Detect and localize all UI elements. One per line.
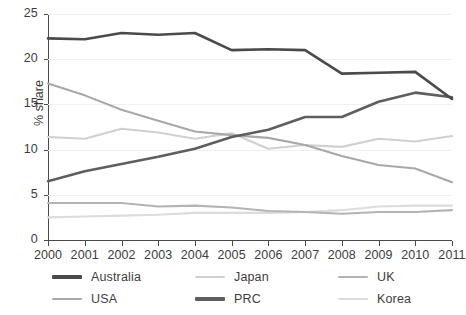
x-tick-mark-2009: [379, 241, 380, 246]
x-tick-label-2010: 2010: [401, 248, 429, 262]
legend-item-usa[interactable]: USA: [52, 290, 117, 308]
legend-item-prc[interactable]: PRC: [195, 290, 261, 308]
x-tick-label-2006: 2006: [254, 248, 282, 262]
x-tick-label-2011: 2011: [438, 248, 465, 262]
legend-swatch-usa: [52, 298, 82, 301]
x-tick-mark-2002: [122, 241, 123, 246]
legend-swatch-uk: [338, 276, 368, 279]
x-tick-mark-2007: [305, 241, 306, 246]
x-tick-label-2002: 2002: [107, 248, 135, 262]
legend-item-japan[interactable]: Japan: [195, 268, 269, 286]
x-tick-label-2001: 2001: [71, 248, 99, 262]
series-line-japan: [48, 129, 452, 149]
x-tick-mark-2004: [195, 241, 196, 246]
x-tick-mark-2005: [232, 241, 233, 246]
y-tick-label-25: 25: [0, 6, 38, 20]
x-tick-label-2004: 2004: [181, 248, 209, 262]
legend-swatch-australia: [52, 275, 82, 278]
legend-swatch-japan: [195, 276, 225, 279]
plot-area: [48, 14, 452, 240]
y-tick-label-15: 15: [0, 96, 38, 110]
x-tick-label-2005: 2005: [217, 248, 245, 262]
chart-legend: AustraliaUSAJapanPRCUKKorea: [52, 268, 452, 312]
legend-swatch-prc: [195, 297, 225, 300]
x-tick-mark-2010: [415, 241, 416, 246]
x-tick-mark-2011: [452, 241, 453, 246]
x-axis-line: [48, 240, 452, 241]
x-tick-mark-2000: [48, 241, 49, 246]
x-tick-mark-2006: [268, 241, 269, 246]
y-tick-label-20: 20: [0, 51, 38, 65]
legend-item-korea[interactable]: Korea: [338, 290, 411, 308]
legend-item-uk[interactable]: UK: [338, 268, 395, 286]
y-tick-label-5: 5: [0, 187, 38, 201]
y-tick-label-0: 0: [0, 232, 38, 246]
x-tick-mark-2008: [342, 241, 343, 246]
series-line-australia: [48, 33, 452, 99]
legend-label-korea: Korea: [377, 292, 411, 306]
y-tick-label-10: 10: [0, 142, 38, 156]
legend-label-usa: USA: [91, 292, 117, 306]
x-tick-label-2000: 2000: [34, 248, 62, 262]
x-tick-label-2008: 2008: [328, 248, 356, 262]
x-tick-mark-2001: [85, 241, 86, 246]
x-tick-label-2009: 2009: [364, 248, 392, 262]
legend-label-japan: Japan: [234, 270, 269, 284]
legend-label-prc: PRC: [234, 292, 261, 306]
legend-swatch-korea: [338, 298, 368, 301]
series-lines: [48, 14, 452, 240]
x-tick-label-2007: 2007: [291, 248, 319, 262]
legend-label-uk: UK: [377, 270, 395, 284]
legend-label-australia: Australia: [91, 270, 141, 284]
x-tick-label-2003: 2003: [144, 248, 172, 262]
legend-item-australia[interactable]: Australia: [52, 268, 141, 286]
x-tick-mark-2003: [158, 241, 159, 246]
